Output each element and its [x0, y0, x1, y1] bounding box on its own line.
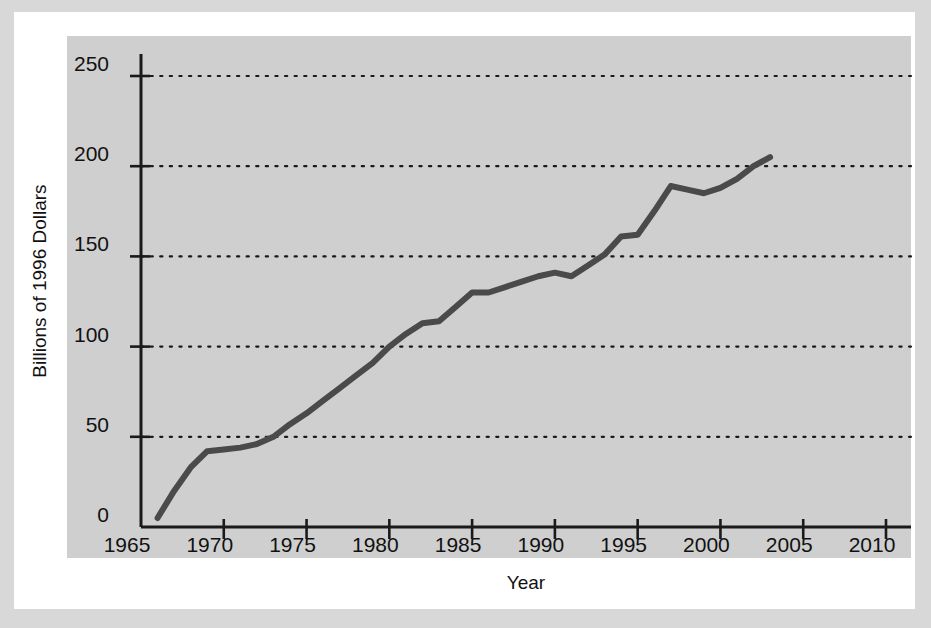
grid-lines [141, 76, 911, 437]
x-tick-marks [224, 519, 886, 539]
figure-card: Billions of 1996 Dollars Year 0501001502… [14, 12, 915, 609]
screenshot-page: Billions of 1996 Dollars Year 0501001502… [0, 0, 931, 628]
chart-svg [14, 12, 931, 628]
data-series-line [158, 157, 771, 518]
axis-lines [141, 54, 911, 527]
